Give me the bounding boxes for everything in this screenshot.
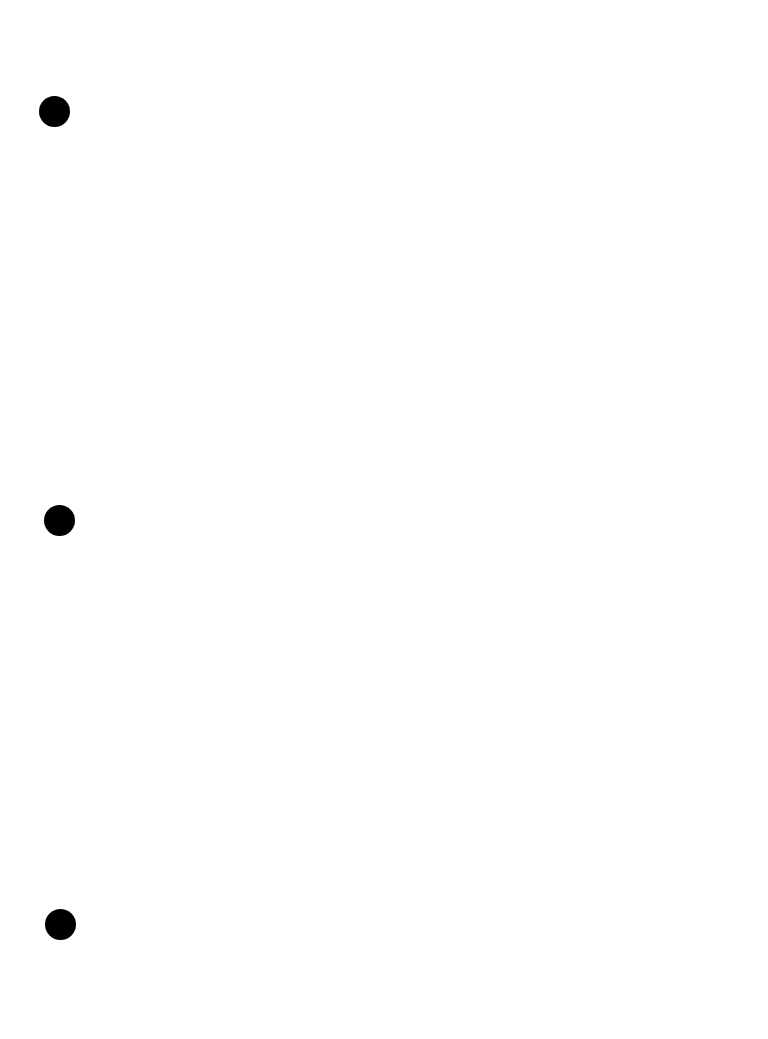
punch-hole-bottom-icon bbox=[45, 909, 76, 940]
punch-hole-top-icon bbox=[39, 96, 70, 127]
punch-hole-middle-icon bbox=[44, 505, 75, 536]
blank-document-page bbox=[0, 0, 768, 1039]
